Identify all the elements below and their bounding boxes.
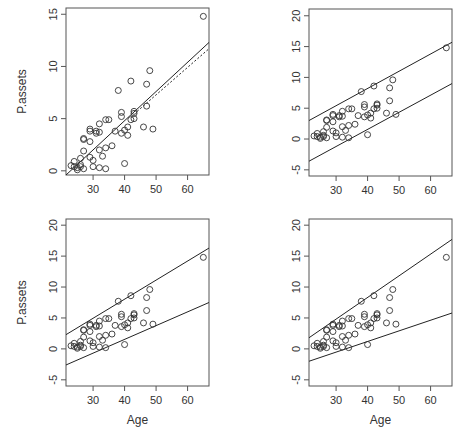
data-point	[144, 308, 150, 314]
x-tick-label: 60	[181, 394, 193, 406]
data-point	[383, 320, 389, 326]
data-point	[339, 344, 345, 350]
data-point	[100, 153, 106, 159]
data-points	[68, 13, 206, 172]
upper-band-line	[66, 248, 209, 335]
data-point	[103, 166, 109, 172]
data-point	[128, 78, 134, 84]
upper-band-line	[309, 42, 452, 120]
panel-bottom-right: 30405060-505101520Age	[290, 219, 452, 427]
scatter-plot-grid: 30405060051015P.assets 30405060-50510152…	[0, 0, 466, 443]
x-tick-label: 60	[424, 184, 436, 196]
fit-dotted-line	[137, 49, 209, 112]
y-tick-label: 0	[290, 136, 302, 142]
data-point	[324, 124, 330, 130]
data-point	[387, 98, 393, 104]
data-point	[387, 85, 393, 91]
y-tick-label: 20	[290, 10, 302, 22]
x-tick-label: 60	[181, 183, 193, 195]
y-tick-label: -5	[47, 375, 59, 385]
data-point	[87, 329, 93, 335]
y-tick-label: 5	[47, 315, 59, 321]
x-axis: 30405060	[87, 175, 194, 195]
y-tick-label: 15	[290, 250, 302, 262]
data-point	[339, 334, 345, 340]
data-point	[147, 68, 153, 74]
data-point	[87, 139, 93, 145]
y-tick-label: -5	[290, 375, 302, 385]
data-point	[103, 145, 109, 151]
y-tick-label: 0	[290, 346, 302, 352]
fit-lines	[309, 42, 452, 161]
data-point	[144, 295, 150, 301]
data-point	[355, 113, 361, 119]
data-point	[200, 254, 206, 260]
y-tick-label: 5	[47, 116, 59, 122]
y-axis: -505101520	[290, 10, 309, 175]
data-point	[443, 254, 449, 260]
data-point	[324, 334, 330, 340]
x-tick-label: 30	[87, 394, 99, 406]
panel-bottom-left: 30405060-505101520P.assetsAge	[15, 219, 209, 427]
x-tick-label: 40	[361, 394, 373, 406]
data-points	[68, 254, 206, 351]
y-tick-label: 20	[47, 219, 59, 231]
x-axis: 30405060	[330, 386, 437, 406]
data-point	[118, 114, 124, 120]
x-axis: 30405060	[330, 176, 437, 196]
data-point	[150, 126, 156, 132]
data-point	[330, 119, 336, 125]
y-axis: 051015	[47, 8, 66, 174]
y-tick-label: 5	[290, 315, 302, 321]
data-point	[330, 329, 336, 335]
data-point	[122, 342, 128, 348]
panel-top-right: 30405060-505101520	[290, 9, 452, 196]
data-point	[365, 132, 371, 138]
data-point	[96, 334, 102, 340]
y-axis: -505101520	[47, 219, 66, 385]
data-point	[100, 337, 106, 343]
x-tick-label: 40	[118, 183, 130, 195]
y-tick-label: -5	[290, 165, 302, 175]
x-tick-label: 40	[361, 184, 373, 196]
data-point	[96, 121, 102, 127]
data-point	[387, 308, 393, 314]
data-point	[125, 132, 131, 138]
data-point	[112, 322, 118, 328]
data-point	[393, 321, 399, 327]
x-tick-label: 30	[87, 183, 99, 195]
data-point	[109, 143, 115, 149]
data-point	[96, 147, 102, 153]
data-point	[200, 13, 206, 19]
data-point	[150, 321, 156, 327]
plot-frame	[309, 9, 452, 176]
x-tick-label: 50	[393, 394, 405, 406]
data-point	[115, 87, 121, 93]
x-axis: 30405060	[87, 386, 194, 406]
x-tick-label: 50	[150, 183, 162, 195]
data-point	[339, 124, 345, 130]
lower-band-line	[309, 313, 452, 361]
x-tick-label: 60	[424, 394, 436, 406]
data-point	[81, 334, 87, 340]
plot-frame	[66, 219, 209, 386]
data-point	[140, 320, 146, 326]
x-tick-label: 30	[330, 394, 342, 406]
data-point	[390, 77, 396, 83]
y-tick-label: 0	[47, 168, 59, 174]
y-tick-label: 15	[47, 8, 59, 20]
x-axis-label: Age	[127, 413, 149, 427]
data-point	[109, 331, 115, 337]
data-point	[383, 110, 389, 116]
data-point	[147, 287, 153, 293]
plot-frame	[309, 219, 452, 386]
data-point	[333, 134, 339, 140]
data-point	[387, 295, 393, 301]
y-axis: -505101520	[290, 219, 309, 385]
y-tick-label: 5	[290, 105, 302, 111]
y-axis-label: P.assets	[15, 280, 29, 324]
data-point	[77, 155, 83, 161]
data-point	[96, 165, 102, 171]
data-point	[122, 161, 128, 167]
data-point	[390, 287, 396, 293]
